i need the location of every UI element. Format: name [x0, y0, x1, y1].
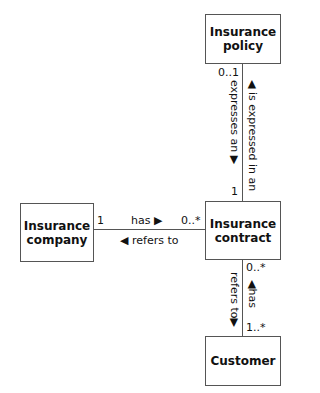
role-label-has-customer: ◀has	[246, 280, 258, 308]
multiplicity-contract-customer-end: 0..*	[246, 262, 266, 274]
class-name: Customer	[210, 354, 275, 368]
multiplicity-policy: 0..1	[218, 67, 239, 79]
role-label-is-expressed-in: ◀ is expressed in an	[246, 80, 258, 191]
class-customer[interactable]: Customer	[205, 336, 281, 386]
role-label-has: has ▶	[131, 215, 162, 227]
assoc-line-company-contract	[93, 229, 205, 230]
role-label-refers-to: ◀ refers to	[120, 235, 178, 247]
multiplicity-contract-policy-end: 1	[231, 186, 238, 198]
class-name: contract	[210, 231, 277, 245]
multiplicity-company: 1	[97, 215, 104, 227]
multiplicity-contract-company-end: 0..*	[181, 215, 201, 227]
class-name: Insurance	[210, 217, 277, 231]
class-name: Insurance	[24, 219, 91, 233]
role-label-expresses: expresses an ▶	[228, 80, 240, 164]
class-name: Insurance	[210, 25, 277, 39]
class-name: policy	[210, 39, 277, 53]
assoc-line-policy-contract	[242, 63, 243, 201]
class-insurance-company[interactable]: Insurancecompany	[20, 203, 94, 262]
class-name: company	[24, 233, 91, 247]
multiplicity-customer: 1..*	[246, 322, 266, 334]
class-insurance-contract[interactable]: Insurancecontract	[205, 201, 281, 260]
assoc-line-contract-customer	[242, 259, 243, 336]
class-insurance-policy[interactable]: Insurancepolicy	[205, 14, 281, 64]
role-label-refers-to-customer: refers to▶	[228, 272, 240, 327]
